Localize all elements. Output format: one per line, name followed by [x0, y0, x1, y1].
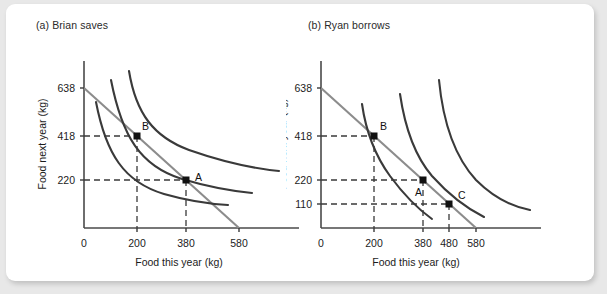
x-tick-label-580-a: 580 — [230, 237, 248, 249]
y-tick-label-110-b: 110 — [295, 198, 312, 210]
x-tick-label-200-b: 200 — [365, 237, 383, 249]
x-tick-label-380-b: 380 — [414, 237, 432, 249]
point-label-c-b: C — [458, 189, 466, 201]
x-tick-label-480-b: 480 — [440, 237, 458, 249]
budget-line-b — [321, 88, 476, 228]
indifference-curve-b-3 — [439, 80, 530, 210]
x-tick-label-580-b: 580 — [467, 237, 485, 249]
figure-card: (a) Brian saves — [6, 4, 594, 281]
data-point-a-a[interactable] — [183, 177, 190, 184]
chart-b-plot: B A C 638 418 220 110 0 200 380 480 580 … — [286, 4, 580, 281]
x-tick-label-380-a: 380 — [177, 237, 195, 249]
y-tick-label-418-b: 418 — [294, 130, 312, 142]
y-tick-label-220-a: 220 — [57, 174, 75, 186]
x-tick-label-0-a: 0 — [81, 237, 87, 249]
x-axis-title-a: Food this year (kg) — [135, 256, 223, 268]
y-axis-title-b: Food next year (kg) — [286, 98, 288, 189]
y-tick-label-418-a: 418 — [57, 130, 75, 142]
data-point-b-b[interactable] — [371, 133, 378, 140]
y-tick-label-638-b: 638 — [294, 82, 312, 94]
panel-ryan-borrows: (b) Ryan borrows — [286, 4, 580, 281]
panel-brian-saves: (a) Brian saves — [14, 4, 308, 281]
point-label-b-a: B — [142, 120, 149, 132]
y-tick-label-638-a: 638 — [57, 82, 75, 94]
point-label-b-b: B — [380, 120, 387, 132]
data-point-c-b[interactable] — [446, 201, 453, 208]
indifference-curve-a-3 — [129, 71, 279, 171]
y-axis-title-a: Food next year (kg) — [36, 98, 48, 189]
data-point-a-b[interactable] — [420, 177, 427, 184]
x-tick-label-200-a: 200 — [128, 237, 146, 249]
chart-a-plot: B A 638 418 220 0 200 380 580 Food this … — [14, 4, 308, 281]
y-tick-label-220-b: 220 — [294, 174, 312, 186]
point-label-a-a: A — [195, 171, 202, 183]
x-tick-label-0-b: 0 — [318, 237, 324, 249]
x-axis-title-b: Food this year (kg) — [372, 256, 460, 268]
data-point-b-a[interactable] — [134, 133, 141, 140]
point-label-a-b: A — [415, 186, 422, 198]
